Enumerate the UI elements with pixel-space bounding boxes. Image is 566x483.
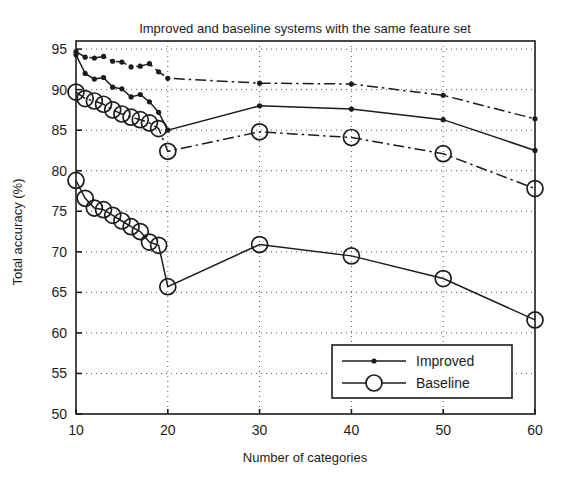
y-tick-label: 80	[51, 163, 67, 179]
data-point-marker	[147, 61, 152, 66]
chart-title: Improved and baseline systems with the s…	[139, 21, 471, 36]
data-point-marker	[252, 237, 268, 253]
data-point-marker	[156, 110, 161, 115]
legend-marker-improved	[371, 358, 376, 363]
y-tick-label: 90	[51, 82, 67, 98]
data-point-marker	[92, 55, 97, 60]
chart-legend[interactable]: ImprovedBaseline	[332, 345, 512, 398]
data-point-marker	[138, 64, 143, 69]
data-point-marker	[147, 99, 152, 104]
x-tick-label: 10	[68, 422, 84, 438]
data-point-marker	[160, 279, 176, 295]
data-point-marker	[257, 103, 262, 108]
data-point-marker	[83, 71, 88, 76]
data-point-marker	[128, 64, 133, 69]
x-tick-label: 20	[160, 422, 176, 438]
data-point-marker	[435, 146, 451, 162]
x-tick-label: 40	[344, 422, 360, 438]
line-chart: Improved and baseline systems with the s…	[0, 0, 566, 483]
y-axis-label: Total accuracy (%)	[10, 179, 25, 286]
data-point-marker	[101, 75, 106, 80]
data-point-marker	[349, 107, 354, 112]
y-tick-label: 75	[51, 203, 67, 219]
data-point-marker	[252, 124, 268, 140]
x-tick-label: 30	[252, 422, 268, 438]
legend-marker-baseline	[366, 375, 382, 391]
y-tick-label: 60	[51, 325, 67, 341]
legend-label[interactable]: Baseline	[416, 375, 470, 391]
chart-figure: Improved and baseline systems with the s…	[0, 0, 566, 483]
data-point-marker	[128, 94, 133, 99]
x-tick-label: 60	[527, 422, 543, 438]
y-tick-label: 95	[51, 41, 67, 57]
y-tick-label: 70	[51, 244, 67, 260]
data-point-marker	[343, 248, 359, 264]
data-point-marker	[257, 81, 262, 86]
data-point-marker	[160, 143, 176, 159]
y-tick-label: 55	[51, 365, 67, 381]
data-point-marker	[156, 69, 161, 74]
data-point-marker	[349, 81, 354, 86]
data-point-marker	[343, 129, 359, 145]
data-point-marker	[138, 92, 143, 97]
legend-label[interactable]: Improved	[416, 353, 474, 369]
y-tick-label: 65	[51, 284, 67, 300]
data-point-marker	[101, 54, 106, 59]
data-point-marker	[119, 59, 124, 64]
data-point-marker	[165, 76, 170, 81]
y-tick-label: 85	[51, 122, 67, 138]
data-point-marker	[92, 77, 97, 82]
data-point-marker	[435, 271, 451, 287]
data-point-marker	[441, 117, 446, 122]
data-point-marker	[110, 85, 115, 90]
data-point-marker	[83, 55, 88, 60]
data-point-marker	[119, 86, 124, 91]
data-point-marker	[151, 237, 167, 253]
data-point-marker	[151, 121, 167, 137]
data-point-marker	[441, 93, 446, 98]
data-point-marker	[110, 59, 115, 64]
x-tick-label: 50	[435, 422, 451, 438]
y-tick-label: 50	[51, 406, 67, 422]
x-axis-label: Number of categories	[243, 450, 368, 465]
